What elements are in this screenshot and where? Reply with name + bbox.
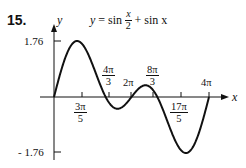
eq-fraction: x 2 (125, 9, 131, 31)
eq-plus: + (135, 13, 142, 28)
eq-term2: sin x (144, 13, 167, 28)
x-axis-label: x (232, 91, 237, 103)
y-tick-label-pos: 1.76 (24, 36, 43, 47)
x-tick-label-3pi5: 3π 5 (74, 101, 87, 124)
x-tick-label-4pi3: 4π 3 (102, 64, 115, 87)
equation-label: y = sin x 2 + sin x (90, 9, 167, 31)
x-tick-label-2pi: 2π (123, 78, 134, 89)
x-axis-arrow-icon (221, 94, 229, 100)
x-tick-label-8pi3: 8π 3 (146, 64, 159, 87)
eq-lhs: y (90, 13, 95, 28)
eq-sin: sin (108, 13, 122, 28)
y-tick-label-neg: - 1.76 (18, 147, 44, 158)
x-tick-label-4pi: 4π (201, 78, 212, 89)
x-tick-label-17pi5: 17π 5 (170, 101, 188, 124)
y-axis-label: y (57, 14, 62, 26)
eq-equals: = (98, 13, 105, 28)
